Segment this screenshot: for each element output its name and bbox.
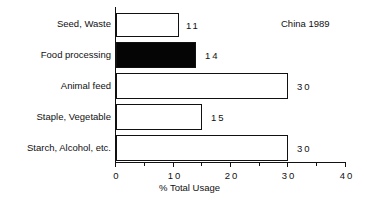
category-label-seed-waste: Seed, Waste [57, 18, 111, 30]
y-axis-line [115, 7, 116, 164]
bar-starch-alcohol [116, 135, 288, 161]
category-label-animal-feed: Animal feed [61, 80, 111, 92]
value-label-starch-alcohol: 30 [297, 143, 312, 155]
x-tick-30 [287, 163, 288, 167]
x-minor-tick-5 [144, 163, 145, 166]
x-minor-tick-25 [259, 163, 260, 166]
category-label-staple-vegetable: Staple, Vegetable [37, 111, 111, 123]
x-axis-title: % Total Usage [159, 182, 220, 194]
value-label-animal-feed: 30 [297, 81, 312, 93]
bar-staple-vegetable [116, 104, 202, 130]
category-label-starch-alcohol: Starch, Alcohol, etc. [27, 142, 111, 154]
x-tick-label-40: 40 [340, 170, 355, 182]
category-label-food-processing: Food processing [41, 49, 111, 61]
bar-food-processing [116, 42, 196, 68]
value-label-staple-vegetable: 15 [211, 112, 226, 124]
x-tick-label-20: 20 [225, 170, 240, 182]
bar-animal-feed [116, 73, 288, 99]
value-label-food-processing: 14 [205, 50, 220, 62]
x-tick-40 [345, 163, 346, 167]
x-tick-label-30: 30 [282, 170, 297, 182]
bar-seed-waste [116, 13, 179, 37]
chart: China 1989 Seed, Waste Food processing A… [0, 0, 367, 206]
x-minor-tick-35 [316, 163, 317, 166]
x-minor-tick-15 [201, 163, 202, 166]
x-tick-10 [173, 163, 174, 167]
x-tick-label-0: 0 [113, 170, 120, 182]
chart-title: China 1989 [281, 18, 330, 30]
x-tick-label-10: 10 [168, 170, 183, 182]
x-tick-20 [230, 163, 231, 167]
value-label-seed-waste: 11 [186, 20, 200, 32]
x-tick-0 [115, 163, 116, 167]
